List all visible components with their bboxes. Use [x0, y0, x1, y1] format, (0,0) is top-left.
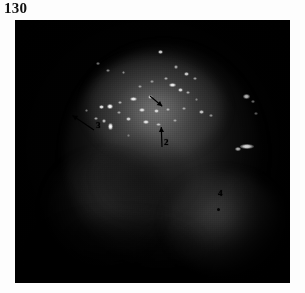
bright-speck — [102, 119, 106, 123]
tissue-glow-right-lobe — [166, 173, 282, 273]
annotation-label-3: 3 — [96, 121, 101, 130]
field-vignette — [15, 20, 290, 283]
annotation-arrow-2 — [162, 147, 163, 148]
tissue-shadow-center — [98, 136, 192, 215]
bright-speck — [235, 147, 241, 151]
bright-speck — [174, 65, 178, 69]
annotation-arrow-3 — [94, 130, 95, 131]
bright-speck — [178, 88, 183, 92]
bright-speck — [126, 117, 131, 121]
bright-speck — [182, 107, 186, 110]
bright-speck — [122, 71, 125, 74]
figure-photograph: 234 — [15, 20, 290, 283]
bright-speck — [173, 119, 177, 122]
bright-speck — [184, 72, 189, 76]
tissue-shadow-bottom — [37, 215, 202, 283]
bright-speck — [143, 120, 149, 124]
bright-speck — [99, 105, 104, 109]
bright-speck — [240, 144, 254, 149]
annotation-dot-4 — [217, 208, 220, 211]
bright-speck — [195, 98, 198, 101]
bright-speck — [193, 77, 197, 80]
tissue-glow-left-lobe — [48, 157, 158, 262]
bright-speck — [106, 69, 110, 72]
bright-speck — [118, 101, 122, 104]
film-grain-overlay — [15, 20, 290, 283]
bright-speck — [107, 104, 113, 109]
bright-speck — [130, 97, 137, 101]
bright-speck — [251, 100, 255, 103]
bright-speck — [96, 62, 100, 65]
scanned-page: 130 234 — [0, 0, 305, 293]
bright-speck — [127, 134, 130, 137]
bright-speck — [164, 77, 168, 80]
bright-speck — [199, 110, 204, 114]
annotation-label-2: 2 — [164, 138, 169, 147]
annotation-label-4: 4 — [218, 189, 223, 198]
bright-speck — [138, 85, 142, 88]
bright-speck — [209, 114, 213, 117]
bright-speck — [158, 50, 163, 54]
photo-canvas: 234 — [15, 20, 290, 283]
bright-speck — [243, 94, 250, 99]
bright-speck — [169, 83, 176, 87]
bright-speck — [108, 123, 113, 130]
bright-speck — [156, 123, 161, 126]
bright-speck — [150, 80, 154, 83]
bright-speck — [85, 109, 88, 112]
bright-speck — [154, 109, 159, 113]
bright-speck — [186, 91, 190, 94]
bright-speck — [166, 108, 170, 111]
bright-speck — [139, 108, 145, 112]
page-number: 130 — [4, 0, 27, 17]
bright-speck — [254, 112, 258, 115]
bright-speck — [117, 111, 121, 114]
annotation-arrow-1 — [150, 96, 151, 97]
